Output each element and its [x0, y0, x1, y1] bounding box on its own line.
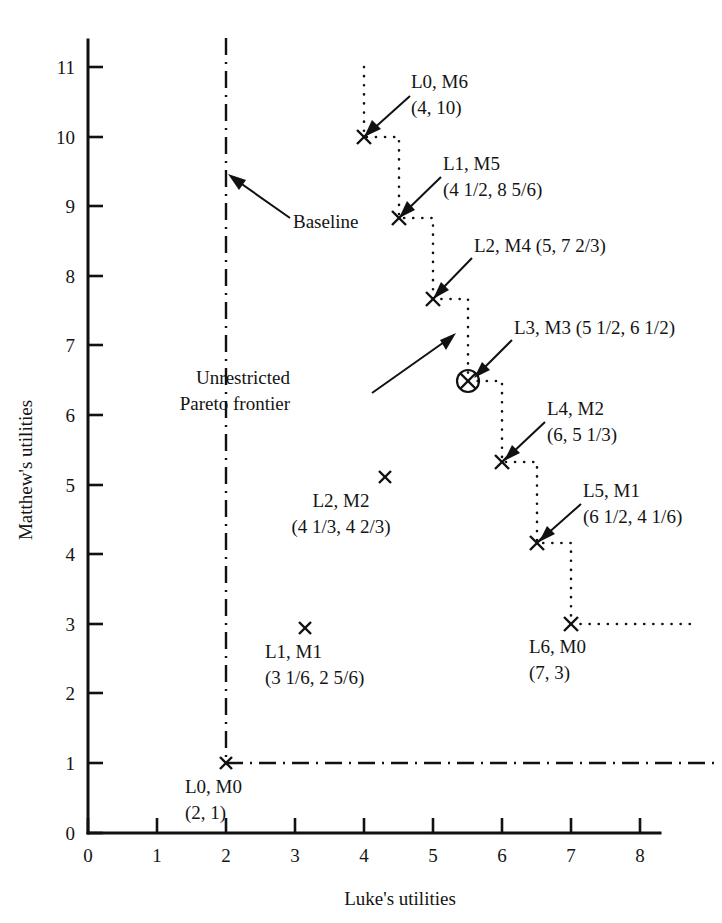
- label-l5m1-name: L5, M1: [583, 480, 640, 501]
- x-tick-label-0: 0: [83, 845, 93, 866]
- y-tick-label-10: 10: [56, 127, 75, 148]
- y-tick-labels: 0 1 2 3 4 5 6 7 8 9 10 11: [56, 57, 76, 844]
- marker-l6m0: [564, 617, 578, 631]
- label-l6m0-name: L6, M0: [529, 636, 586, 657]
- label-l2m4: L2, M4 (5, 7 2/3): [474, 235, 606, 257]
- x-tick-label-4: 4: [359, 845, 369, 866]
- label-l1m1-coords: (3 1/6, 2 5/6): [265, 667, 364, 689]
- leader-l2m4: [433, 258, 472, 299]
- leader-l3m3: [474, 340, 512, 378]
- y-tick-label-4: 4: [66, 544, 76, 565]
- x-tick-label-6: 6: [497, 845, 507, 866]
- leader-l0m6: [364, 96, 410, 137]
- label-l4m2-name: L4, M2: [547, 398, 604, 419]
- y-tick-label-3: 3: [66, 614, 76, 635]
- leader-frontier: [372, 333, 456, 393]
- pareto-frontier-path: [364, 67, 690, 624]
- y-tick-label-1: 1: [66, 753, 76, 774]
- marker-l2m2: [379, 471, 391, 483]
- label-l1m1-name: L1, M1: [265, 641, 322, 662]
- y-tick-label-0: 0: [66, 823, 76, 844]
- x-tick-label-8: 8: [635, 845, 645, 866]
- y-tick-label-2: 2: [66, 683, 76, 704]
- label-l2m2-name: L2, M2: [313, 490, 370, 511]
- y-tick-marks: [88, 67, 103, 833]
- leader-l4m2: [504, 422, 545, 461]
- label-frontier-line1: Unrestricted: [196, 367, 290, 388]
- x-axis-title: Luke's utilities: [344, 888, 456, 909]
- pareto-frontier-chart: 0 1 2 3 4 5 6 7 8 0 1 2 3 4 5 6 7 8 9 10…: [0, 0, 722, 923]
- label-l1m5-name: L1, M5: [443, 153, 500, 174]
- y-tick-label-5: 5: [66, 475, 76, 496]
- x-tick-label-7: 7: [566, 845, 576, 866]
- leader-l1m5: [399, 177, 441, 218]
- y-tick-label-7: 7: [66, 335, 76, 356]
- label-l2m2-coords: (4 1/3, 4 2/3): [291, 516, 390, 538]
- marker-l1m1: [299, 622, 311, 634]
- x-tick-label-2: 2: [221, 845, 231, 866]
- label-l0m6-coords: (4, 10): [411, 97, 462, 119]
- x-tick-label-5: 5: [428, 845, 438, 866]
- label-l0m0-name: L0, M0: [185, 776, 242, 797]
- label-l0m6-name: L0, M6: [411, 71, 468, 92]
- y-axis-title: Matthew's utilities: [15, 400, 36, 540]
- label-l1m5-coords: (4 1/2, 8 5/6): [443, 179, 542, 201]
- x-tick-label-1: 1: [152, 845, 162, 866]
- chart-canvas: 0 1 2 3 4 5 6 7 8 0 1 2 3 4 5 6 7 8 9 10…: [0, 0, 722, 923]
- y-tick-label-8: 8: [66, 266, 76, 287]
- label-frontier-line2: Pareto frontier: [180, 393, 291, 414]
- y-tick-label-9: 9: [66, 196, 76, 217]
- x-tick-labels: 0 1 2 3 4 5 6 7 8: [83, 845, 645, 866]
- leader-baseline: [228, 174, 290, 218]
- label-l3m3: L3, M3 (5 1/2, 6 1/2): [514, 317, 675, 339]
- y-tick-label-6: 6: [66, 405, 76, 426]
- label-l6m0-coords: (7, 3): [529, 662, 570, 684]
- annotation-labels: L0, M6 (4, 10) L1, M5 (4 1/2, 8 5/6) L2,…: [180, 71, 682, 824]
- frontier-staircase: [364, 67, 690, 624]
- x-tick-label-3: 3: [290, 845, 300, 866]
- x-tick-marks: [88, 818, 640, 833]
- label-l0m0-coords: (2, 1): [185, 802, 226, 824]
- label-baseline: Baseline: [293, 211, 358, 232]
- label-l5m1-coords: (6 1/2, 4 1/6): [583, 506, 682, 528]
- label-l4m2-coords: (6, 5 1/3): [547, 424, 617, 446]
- leader-l5m1: [539, 504, 581, 542]
- y-tick-label-11: 11: [57, 57, 75, 78]
